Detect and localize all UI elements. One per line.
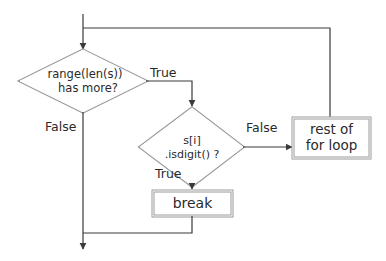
process-rest-line-1: rest of <box>293 121 370 137</box>
process-break-text: break <box>153 195 232 213</box>
edge-label-true-1: True <box>150 67 177 80</box>
decision-range-text: range(len(s)) has more? <box>43 67 127 96</box>
decision-isdigit-line-2: .isdigit() ? <box>152 148 232 162</box>
process-rest-line-2: for loop <box>293 137 370 153</box>
process-rest-text: rest of for loop <box>293 121 370 154</box>
break-exit-connector <box>83 216 192 233</box>
true-branch-connector <box>146 81 192 106</box>
decision-range-line-1: range(len(s)) <box>43 67 127 81</box>
decision-isdigit-text: s[i] .isdigit() ? <box>152 134 232 162</box>
edge-label-false-2: False <box>246 122 277 135</box>
decision-range-line-2: has more? <box>43 81 127 95</box>
edge-label-true-2: True <box>155 168 182 181</box>
edge-label-false-1: False <box>45 121 76 134</box>
decision-isdigit-line-1: s[i] <box>152 134 232 148</box>
